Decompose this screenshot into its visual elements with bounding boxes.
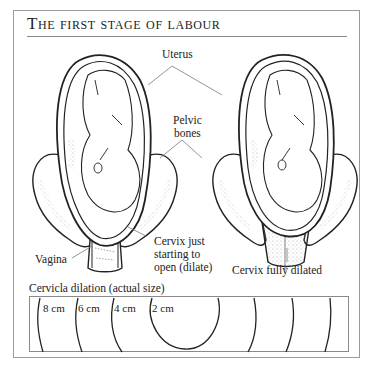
ring-label-6cm: 6 cm: [78, 302, 100, 314]
ring-4cm-right: [248, 298, 256, 352]
ring-8cm-right: [325, 298, 331, 352]
ring-6cm-right: [286, 298, 293, 352]
ring-label-2cm: 2 cm: [152, 302, 174, 314]
ring-label-4cm: 4 cm: [114, 302, 136, 314]
dilation-rings: [0, 0, 376, 376]
ring-label-8cm: 8 cm: [43, 302, 65, 314]
